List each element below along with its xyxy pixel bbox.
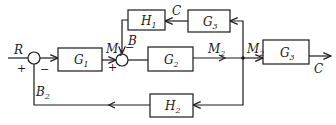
sum2-minus-sign: −: [125, 41, 134, 54]
branch-to-h2-line: [194, 58, 243, 105]
c-feedback-label: C: [172, 4, 181, 18]
branch-to-g3-feedback-line: [231, 21, 243, 58]
sum1-minus-sign: −: [40, 63, 49, 76]
block-diagram: G1 G2 G3 G3 H1 H2 R C C B B2 M1 M2 M2 + …: [0, 0, 336, 125]
summing-junction-1: [28, 52, 40, 64]
m1-signal-label: M1: [105, 42, 123, 58]
m2-signal-label-a: M2: [207, 42, 225, 58]
m2-signal-label-b: M2: [246, 42, 264, 58]
sum2-plus-sign: +: [108, 61, 117, 74]
sum1-plus-sign: +: [17, 62, 26, 75]
b2-signal-label: B2: [35, 85, 50, 101]
r-signal-label: R: [13, 43, 23, 57]
c-output-label: C: [314, 62, 323, 76]
